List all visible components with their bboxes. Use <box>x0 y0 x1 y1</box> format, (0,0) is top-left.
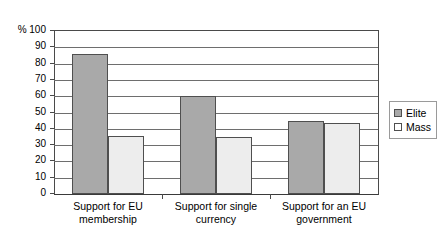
bar-mass <box>108 136 144 194</box>
x-axis-tick-mark <box>270 194 271 199</box>
legend-item-mass[interactable]: Mass <box>394 120 431 134</box>
bar-group <box>54 31 162 194</box>
plot-area <box>54 30 379 195</box>
x-axis-category-label: Support for an EU government <box>270 200 378 225</box>
bar-mass <box>324 123 360 194</box>
y-axis-tick-label: % 100 <box>18 25 46 35</box>
legend-swatch-icon <box>394 123 402 131</box>
legend: EliteMass <box>389 101 437 139</box>
bars-layer <box>54 31 378 194</box>
x-axis-category-label: Support for single currency <box>162 200 270 225</box>
y-axis-tick-label: 90 <box>35 41 46 51</box>
bar-group <box>270 31 378 194</box>
x-axis-category-label: Support for EU membership <box>54 200 162 225</box>
bar-chart: % 1009080706050403020100 Support for EU … <box>0 0 448 235</box>
bar-elite <box>180 96 216 194</box>
legend-item-label: Elite <box>406 108 426 119</box>
y-axis-tick-label: 50 <box>35 107 46 117</box>
x-axis-tick-mark <box>162 194 163 199</box>
y-axis-tick-label: 60 <box>35 90 46 100</box>
legend-item-label: Mass <box>406 122 431 133</box>
y-axis-tick-label: 70 <box>35 74 46 84</box>
legend-item-elite[interactable]: Elite <box>394 106 431 120</box>
bar-group <box>162 31 270 194</box>
y-axis-tick-label: 10 <box>35 172 46 182</box>
y-axis-tick-label: 80 <box>35 58 46 68</box>
bar-elite <box>72 54 108 194</box>
y-axis-tick-label: 30 <box>35 139 46 149</box>
y-axis-tick-label: 0 <box>40 188 46 198</box>
legend-swatch-icon <box>394 109 402 117</box>
y-axis: % 1009080706050403020100 <box>0 24 50 199</box>
bar-elite <box>288 121 324 194</box>
bar-mass <box>216 137 252 194</box>
y-axis-tick-label: 20 <box>35 155 46 165</box>
y-axis-tick-label: 40 <box>35 123 46 133</box>
